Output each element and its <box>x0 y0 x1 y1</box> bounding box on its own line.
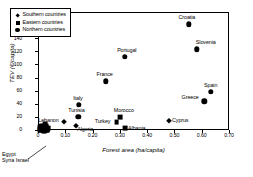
y-axis-title: TEV (€/capita) <box>9 20 15 106</box>
cluster-callout-labels: EgyptSyria Israel <box>2 151 29 164</box>
x-axis-title: Forest area (ha/capita) <box>38 147 229 153</box>
scatter-chart: 020406080100120140160180 00.100.200.300.… <box>0 0 253 177</box>
cluster-label: Syria Israel <box>2 157 29 163</box>
